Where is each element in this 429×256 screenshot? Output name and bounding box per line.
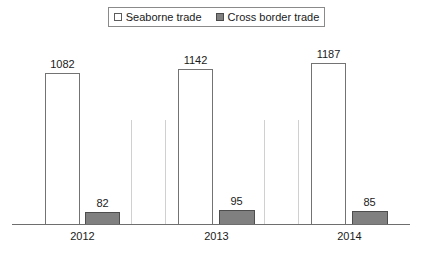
- bar-seaborne-2014[interactable]: [311, 63, 346, 225]
- bar-value-seaborne-2013: 1142: [173, 54, 218, 66]
- x-tick-label-2013: 2013: [194, 230, 239, 242]
- bar-seaborne-2013[interactable]: [178, 69, 213, 225]
- group-separator: [131, 120, 132, 224]
- bar-value-seaborne-2014: 1187: [306, 48, 351, 60]
- group-separator: [165, 120, 166, 224]
- bar-value-cross-border-2012: 82: [80, 197, 125, 209]
- bar-value-cross-border-2014: 85: [347, 196, 392, 208]
- group-separator: [264, 120, 265, 224]
- bar-value-cross-border-2013: 95: [214, 195, 259, 207]
- bar-cross-border-2013[interactable]: [219, 210, 255, 225]
- bar-chart: Seaborne trade Cross border trade 1082 8…: [0, 0, 429, 256]
- group-separator: [298, 120, 299, 224]
- x-tick-label-2014: 2014: [327, 230, 372, 242]
- x-tick-label-2012: 2012: [60, 230, 105, 242]
- plot-area: 1082 82 2012 1142 95 2013 1187 85 2014: [0, 0, 429, 256]
- bar-cross-border-2014[interactable]: [352, 211, 388, 225]
- bar-value-seaborne-2012: 1082: [40, 58, 85, 70]
- x-axis-line: [12, 224, 410, 225]
- bar-seaborne-2012[interactable]: [45, 73, 80, 225]
